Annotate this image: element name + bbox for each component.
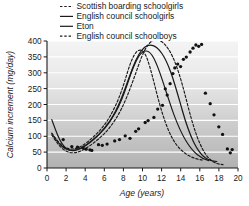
- x-tick-label: 20: [233, 174, 243, 183]
- y-tick-label: 300: [28, 69, 42, 78]
- y-axis-title: Calcium increment (mg/day): [5, 51, 15, 159]
- y-axis-tick-labels: 400 350 300 250 200 150 100 50 0: [28, 37, 42, 173]
- y-tick-label: 350: [28, 53, 42, 62]
- legend-item-english-council-schoolgirls: English council schoolgirls: [60, 11, 174, 21]
- x-tick-label: 2: [64, 174, 69, 183]
- x-tick-label: 14: [176, 174, 186, 183]
- legend-label: Eton: [77, 21, 95, 31]
- y-tick-label: 400: [28, 37, 42, 46]
- legend-item-english-council-schoolboys: English council schoolboys: [60, 31, 177, 41]
- legend-item-eton: Eton: [60, 21, 94, 31]
- y-tick-label: 200: [28, 101, 42, 110]
- x-tick-label: 8: [121, 174, 126, 183]
- y-tick-label: 250: [28, 85, 42, 94]
- calcium-increment-line-chart: 400 350 300 250 200 150 100 50 0 0 2 4 6…: [0, 0, 249, 206]
- x-tick-label: 0: [45, 174, 50, 183]
- x-axis-title: Age (years): [119, 188, 165, 198]
- y-tick-label: 100: [28, 132, 42, 141]
- x-tick-label: 18: [214, 174, 224, 183]
- x-tick-label: 16: [195, 174, 205, 183]
- legend-label: English council schoolboys: [77, 31, 177, 41]
- y-tick-label: 0: [37, 164, 42, 173]
- y-tick-label: 50: [32, 148, 42, 157]
- x-tick-label: 12: [157, 174, 167, 183]
- legend-item-scottish-boarding-schoolgirls: Scottish boarding schoolgirls: [60, 1, 183, 11]
- x-tick-label: 6: [102, 174, 107, 183]
- x-axis-tick-labels: 0 2 4 6 8 10 12 14 16 18 20: [45, 174, 243, 183]
- chart-figure: 400 350 300 250 200 150 100 50 0 0 2 4 6…: [0, 0, 249, 206]
- x-tick-label: 10: [138, 174, 148, 183]
- chart-legend: Scottish boarding schoolgirls English co…: [60, 1, 183, 41]
- legend-label: English council schoolgirls: [77, 11, 175, 21]
- y-tick-label: 150: [28, 116, 42, 125]
- legend-label: Scottish boarding schoolgirls: [77, 1, 184, 11]
- x-tick-label: 4: [83, 174, 88, 183]
